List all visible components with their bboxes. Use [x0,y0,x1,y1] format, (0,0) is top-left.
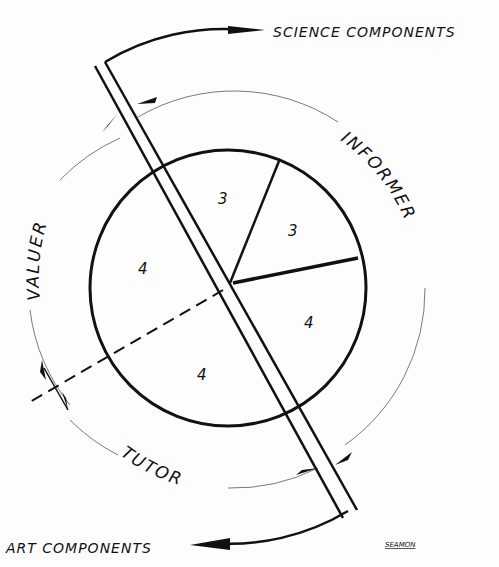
divider-line-thick [233,258,358,283]
tutor-label: TUTOR [118,442,186,489]
signature: SEAMON [385,541,416,549]
arrow-head-icon [102,113,118,132]
role-wheel-diagram: SCIENCE COMPONENTS ART COMPONENTS INFORM… [0,0,499,567]
outer-arc-informer-lower [345,288,425,445]
segment-value: 4 [197,366,207,384]
arrow-head-icon [335,452,352,465]
arrow-head-icon [190,538,230,550]
art-components-label: ART COMPONENTS [5,540,152,556]
science-components-label: SCIENCE COMPONENTS [273,24,456,40]
segment-value: 4 [304,314,314,332]
divider-line [230,161,279,283]
outer-arc-tutor [70,420,118,455]
diagram-canvas: SCIENCE COMPONENTS ART COMPONENTS INFORM… [0,0,499,567]
outer-arc-informer [138,91,338,122]
arrow-head-icon [228,26,265,34]
main-circle [90,150,366,426]
outer-arc-valuer [60,138,120,180]
tick-mark [44,368,68,410]
dashed-divider [28,290,223,403]
arrow-head-icon [296,468,318,475]
art-arrow [210,511,348,544]
valuer-label: VALUER [23,218,51,301]
segment-value: 3 [288,222,298,240]
informer-label: INFORMER [338,127,421,223]
science-arrow [105,29,245,62]
arrow-head-icon [137,97,157,104]
segment-value: 4 [138,260,148,278]
divider-bar-right [105,62,357,510]
segment-value: 3 [218,190,228,208]
